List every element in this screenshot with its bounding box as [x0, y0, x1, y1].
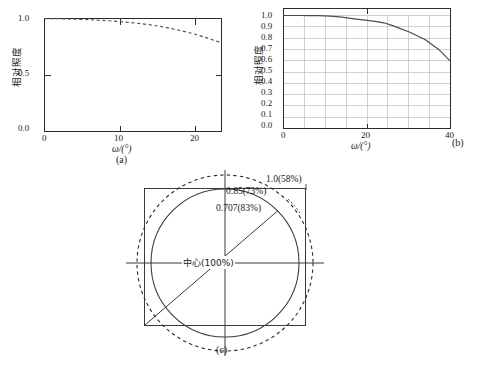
panel-b-x-axis-label: ω/(°)	[351, 141, 370, 151]
panel-c-caption: (c)	[216, 344, 227, 355]
diagram-panel-c: 1.0(58%) 0.85(73%) 0.707(83%) 中心(100%) (…	[120, 158, 370, 367]
panel-a-curve	[45, 19, 222, 43]
panel-a-x-axis-label: ω/(°)	[112, 144, 131, 154]
panel-b-caption: (b)	[452, 137, 464, 148]
panel-a-xtick-10: 10	[114, 133, 123, 143]
chart-panel-b: 相对照度 1.0 0.9 0.8 0.7 0.6 0.5 0.4 0.3 0.2…	[243, 0, 486, 165]
label-center: 中心(100%)	[182, 256, 235, 269]
chart-panel-a: 相对照度 1.0 0.5 0.0	[0, 0, 243, 165]
label-0-85: 0.85(73%)	[226, 186, 266, 196]
leader-0-85	[288, 199, 300, 213]
label-1-0: 1.0(58%)	[266, 174, 302, 184]
panel-b-xtick-20: 20	[361, 130, 370, 140]
panel-a-xtick-20: 20	[190, 133, 199, 143]
panel-b-xtick-0: 0	[281, 130, 286, 140]
label-0-707: 0.707(83%)	[216, 203, 261, 213]
figure-root: 相对照度 1.0 0.5 0.0	[0, 0, 486, 367]
panel-a-xtick-0: 0	[42, 133, 47, 143]
